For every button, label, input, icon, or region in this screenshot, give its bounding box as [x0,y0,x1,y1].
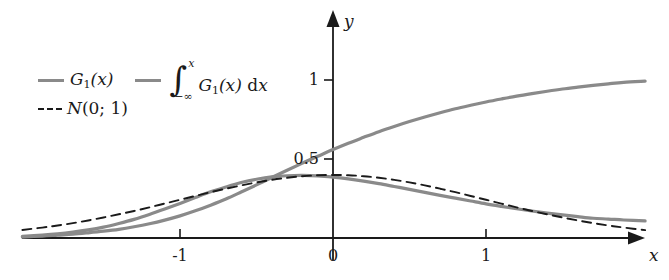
integral-limits: x −∞ [184,58,194,102]
y-axis-name: y [344,13,354,30]
integral-lower-limit: −∞ [174,91,194,102]
differential-d: d [247,75,258,95]
legend-row-bottom: N(0; 1) [38,100,128,117]
legend-swatch-integral [135,79,161,82]
legend-label-integral: ∫ x −∞ G1(x) dx [167,58,267,102]
legend-swatch-density [38,79,64,82]
x-tick-label: 0 [328,248,338,264]
x-axis-arrowhead [628,232,645,245]
legend-normal-base: N [67,98,82,118]
x-axis-name: x [649,247,659,264]
y-tick-label: 0.5 [294,151,319,167]
legend-swatch-normal [38,108,62,110]
x-tick-label: 1 [481,248,491,264]
differential-var: x [258,75,268,95]
figure-canvas: G1(x) ∫ x −∞ G1(x) dx N(0; 1) -1010.51xy [0,0,669,280]
legend-label-density: G1(x) [70,71,113,90]
legend-integral-base: G [198,75,212,95]
legend-density-base: G [70,69,84,89]
legend-integral-arg: (x) [219,75,242,95]
legend-normal-arg: (0; 1) [82,98,128,118]
legend: G1(x) ∫ x −∞ G1(x) dx N(0; 1) [0,0,330,140]
legend-integral-differential: dx [242,75,268,95]
x-tick-label: -1 [172,248,188,264]
legend-label-normal: N(0; 1) [67,100,128,117]
legend-row-top: G1(x) ∫ x −∞ G1(x) dx [38,58,268,102]
integral-upper-limit: x [188,58,194,69]
y-tick-label: 1 [309,72,319,88]
legend-density-subscript: 1 [84,78,91,91]
legend-density-arg: (x) [91,69,114,89]
integral-notation: ∫ x −∞ [169,58,194,102]
legend-integral-subscript: 1 [212,84,219,97]
